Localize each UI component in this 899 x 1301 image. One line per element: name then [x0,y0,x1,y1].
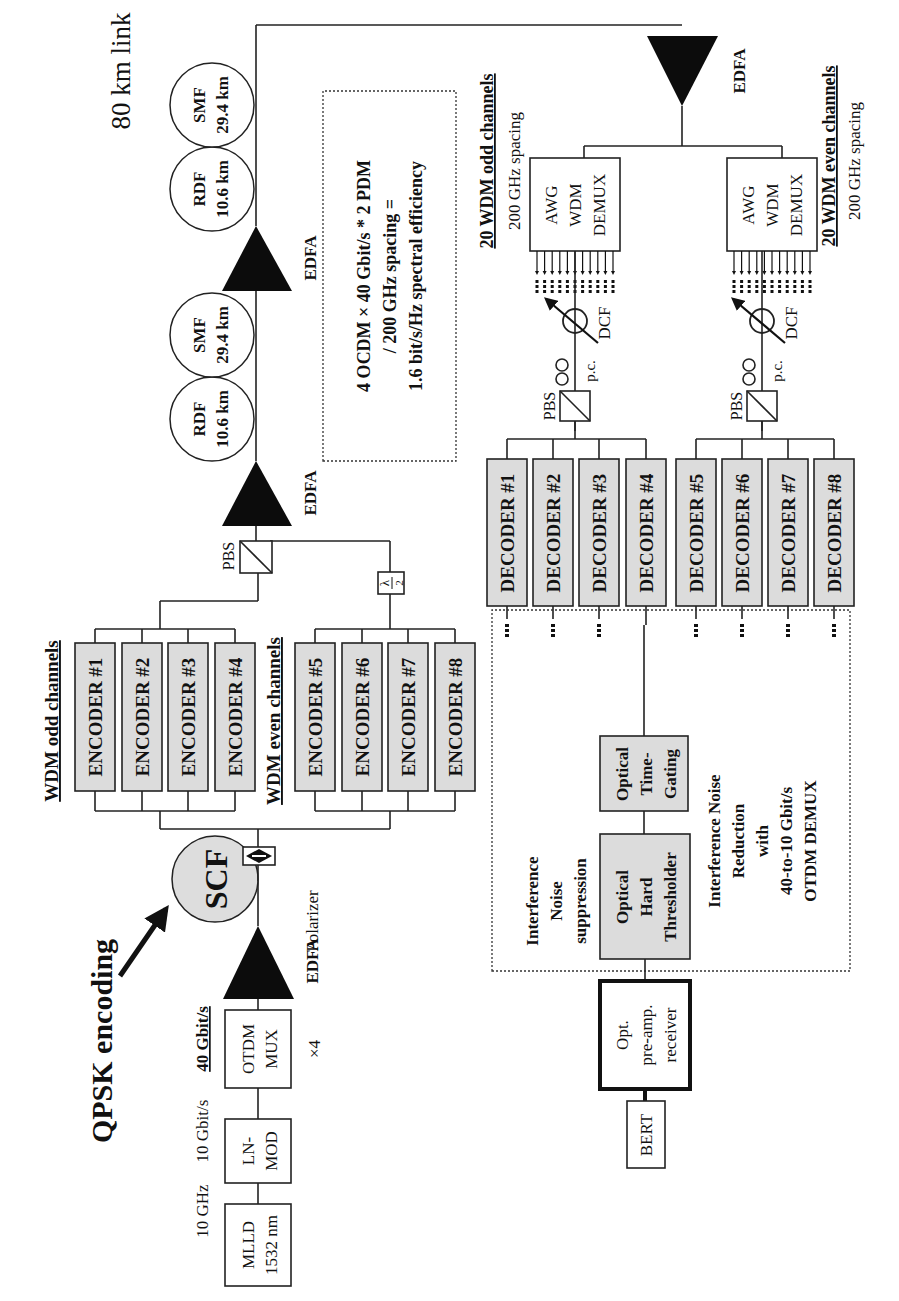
modulator-rate-label: 10 Gbit/s [193,1100,212,1163]
decoder-block-5: DECODER #5 [676,439,716,637]
thresholder-label-2: Hard [637,877,656,916]
smf-span-2-length: 29.4 km [213,76,232,134]
preamp-label-2: pre-amp. [637,1005,656,1066]
efficiency-note-line-1: 4 OCDM × 40 Gbit/s * 2 PDM [354,160,374,392]
encoder-block-8: ENCODER #8 [435,629,475,811]
efficiency-note-line-2: / 200 GHz spacing = [380,199,400,354]
suppression-label-2: Noise [547,881,566,921]
edfa-link-2-icon [222,226,292,291]
encoders: WDM odd channels WDM even channels ENCOD… [41,541,475,829]
encoder-block-1: ENCODER #1 [75,629,115,811]
edfa-rx-amplifier-icon [647,36,718,106]
reduction-label-4: 40-to-10 Gbit/s [777,787,796,896]
awg-even-label-1: AWG [739,185,758,224]
decoder-label: DECODER #7 [778,473,799,592]
rx-odd-label: 20 WDM odd channels [477,73,497,248]
pc-even-label: p.c. [769,360,785,382]
qpsk-arrow-icon [120,909,166,976]
title-80km-link: 80 km link [106,12,136,130]
edfa-link-1-label: EDFA [301,470,320,516]
decoder-block-2: DECODER #2 [533,439,573,637]
source-frequency-label: 10 GHz [193,1184,212,1238]
decoder-label: DECODER #2 [543,474,564,593]
encoder-block-5: ENCODER #5 [295,629,335,811]
thresholder-label-1: Optical [613,870,632,924]
awg-odd-label-1: AWG [542,185,561,224]
encoder-block-2: ENCODER #2 [122,629,162,811]
mlld-box [225,1204,291,1286]
edfa-link-2-label: EDFA [301,235,320,281]
encoder-label: ENCODER #2 [132,658,153,777]
otdm-mux-box [225,1010,291,1088]
reduction-label-1: Interference Noise [705,774,724,908]
rdf-span-2-length: 10.6 km [213,160,232,218]
time-gating-label-1: Optical [613,747,632,801]
ln-mod-label-1: LN- [239,1137,258,1166]
decoder-label: DECODER #5 [686,474,707,593]
encoder-label: ENCODER #7 [398,657,419,776]
awg-odd-label-2: WDM [566,183,585,226]
mlld-label: MLLD [239,1221,258,1269]
encoder-label: ENCODER #6 [352,658,373,777]
thresholder-label-3: Thresholder [661,852,680,942]
preamp-label-1: Opt. [613,1020,632,1050]
edfa-tx-amplifier-icon [223,926,294,999]
wdm-odd-label: WDM odd channels [41,640,62,802]
decoder-block-6: DECODER #6 [722,439,762,637]
pbs-rx-even-label: PBS [728,392,745,420]
rdf-span-1-label: RDF [190,402,209,437]
decoder-label: DECODER #8 [824,474,845,593]
rx-even-spacing: 200 GHz spacing [845,101,864,220]
efficiency-note-line-3: 1.6 bit/s/Hz spectral efficiency [406,161,426,391]
decoder-label: DECODER #4 [636,473,657,592]
reduction-label-5: OTDM DEMUX [801,780,820,902]
time-gating-label-2: Time- [637,752,656,795]
decoder-block-4: DECODER #4 [626,439,666,625]
encoder-block-3: ENCODER #3 [168,629,208,811]
otdm-mux-label-2: MUX [262,1029,281,1069]
otdm-mux-label-1: OTDM [239,1024,258,1074]
mux-rate-label: 40 Gbit/s [193,1006,212,1072]
smf-span-1 [170,293,254,377]
half-wave-lambda: λ [377,579,392,586]
wdm-even-label: WDM even channels [263,637,284,805]
rdf-span-2-label: RDF [190,172,209,207]
decoder-block-3: DECODER #3 [579,439,619,637]
awg-even-ports [732,251,812,293]
smf-span-1-length: 29.4 km [213,306,232,364]
reduction-label-2: Reduction [729,803,748,878]
ln-mod-box [225,1119,291,1183]
smf-span-1-label: SMF [190,317,209,353]
rx-even-label: 20 WDM even channels [819,65,839,246]
diagram-frame: 80 km link 10 GHz MLLD 1532 nm 10 Gbit/s… [0,0,899,1301]
pc-odd-label: p.c. [582,360,598,382]
encoder-label: ENCODER #3 [178,658,199,777]
polarizer-label: Polarizer [303,890,322,952]
decoder-label: DECODER #6 [732,474,753,593]
pc-odd-icon [556,359,568,371]
decoder-block-1: DECODER #1 [487,439,527,637]
suppression-label-3: suppression [571,858,590,944]
decoder-label: DECODER #1 [497,474,518,593]
awg-odd-label-3: DEMUX [590,174,609,236]
rdf-span-2 [170,147,254,231]
reduction-label-3: with [753,824,772,857]
pc-even-icon [743,359,755,371]
smf-span-2-label: SMF [190,87,209,123]
decoder-label: DECODER #3 [589,474,610,593]
decoder-block-7: DECODER #7 [768,439,808,637]
bert-label: BERT [637,1113,656,1156]
encoder-block-6: ENCODER #6 [342,629,382,811]
ln-mod-label-2: MOD [262,1131,281,1171]
encoder-label: ENCODER #4 [225,657,246,776]
pbs-tx-label: PBS [220,542,237,570]
awg-even-label-2: WDM [763,183,782,226]
half-wave-divisor: 2 [393,580,405,586]
system-diagram: 80 km link 10 GHz MLLD 1532 nm 10 Gbit/s… [0,0,899,1301]
rdf-span-1 [170,377,254,461]
edfa-link-1-icon [222,461,292,526]
mlld-wavelength: 1532 nm [262,1215,281,1275]
encoder-block-7: ENCODER #7 [388,629,428,811]
awg-even-label-3: DEMUX [787,174,806,236]
preamp-label-3: receiver [661,1007,680,1062]
